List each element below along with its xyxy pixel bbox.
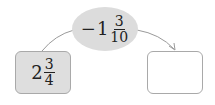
start-value: 2 3 4 [31,57,54,87]
minus-sign: − [81,20,96,38]
operator-value: − 1 3 10 [81,14,129,44]
start-numerator: 3 [44,57,55,73]
start-whole: 2 [31,64,42,82]
incoming-arc [42,30,74,51]
start-box: 2 3 4 [15,51,71,94]
operator-denominator: 10 [109,30,129,45]
operator-numerator: 3 [114,14,125,30]
start-fraction: 3 4 [44,57,55,87]
outgoing-arc [137,30,174,49]
operator-whole: 1 [97,20,108,38]
operator-ellipse: − 1 3 10 [72,7,138,51]
start-denominator: 4 [44,73,55,88]
result-box[interactable] [147,51,203,94]
operator-fraction: 3 10 [109,14,129,44]
